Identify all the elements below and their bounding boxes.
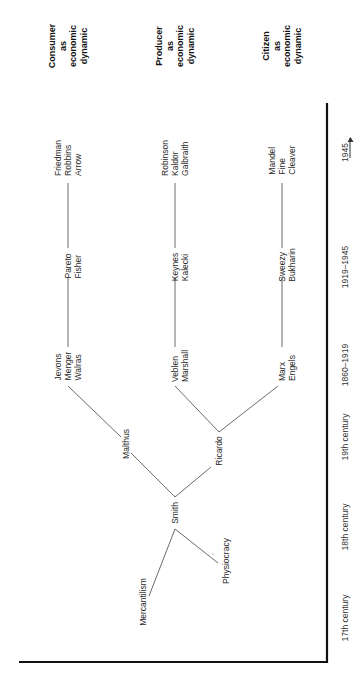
period-1919-1945: 1919–1945: [340, 246, 350, 289]
period-17th-century: 17th century: [340, 595, 350, 642]
period-19th-century: 19th century: [340, 414, 350, 461]
node-consumer-1860: JevonsMengerWalras: [53, 352, 83, 381]
node-consumer-1945: FriedmanRobbinsArrow: [53, 140, 83, 176]
node-malthus: Malthus: [121, 429, 131, 459]
node-producer-1919: KeynesKalecki: [170, 253, 190, 281]
node-smith: Smith: [170, 502, 180, 524]
node-producer-1945: RobinsonKaldorGalbraith: [160, 140, 190, 176]
header-consumer: Consumeraseconomicdynamic: [47, 24, 89, 69]
period-1860-1919: 1860–1919: [340, 344, 350, 387]
node-consumer-1919: ParetoFisher: [63, 253, 83, 278]
node-mercantilism: Mercantilism: [138, 578, 148, 626]
node-citizen-1945: MandelFineCleaver: [267, 145, 297, 174]
period-1945: 1945: [340, 138, 351, 162]
node-physiocracy: Physiocracy: [221, 538, 231, 584]
header-producer: Produceraseconomicdynamic: [154, 25, 196, 67]
node-citizen-1860: MarxEngels: [277, 355, 297, 381]
node-ricardo: Ricardo: [214, 436, 224, 465]
node-producer-1860: VeblenMarshall: [170, 350, 190, 382]
period-18th-century: 18th century: [340, 504, 350, 551]
header-citizen: Citizenaseconomicdynamic: [261, 25, 303, 67]
node-citizen-1919: SweezyBukharin: [277, 248, 297, 282]
arrow-right-icon: [350, 138, 351, 158]
